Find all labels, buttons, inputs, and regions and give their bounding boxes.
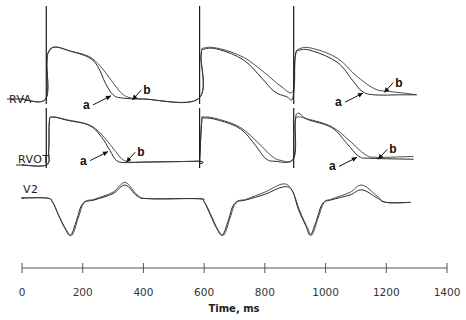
trace-rva-b: [22, 47, 417, 103]
annotation-rvot-a-0: a: [80, 152, 108, 168]
annotation-rvot-a-2: a: [329, 157, 357, 173]
channels-group: RVARVOTV2: [7, 47, 417, 236]
channel-v2: V2: [21, 182, 411, 235]
x-tick-label-0: 0: [19, 286, 26, 298]
x-axis: 0200400600800100012001400: [19, 263, 461, 298]
annotation-label-a: a: [83, 98, 90, 112]
chart-canvas: RVARVOTV2 abababab 020040060080010001200…: [0, 0, 466, 320]
annotation-label-b: b: [143, 83, 150, 97]
x-tick-label-200: 200: [73, 286, 93, 298]
annotation-rvot-b-1: b: [126, 145, 144, 162]
annotation-label-a: a: [335, 95, 342, 109]
annotation-label-b: b: [137, 145, 144, 159]
trace-rva-a: [22, 47, 417, 102]
annotation-label-b: b: [389, 142, 396, 156]
annotation-rva-a-2: a: [335, 93, 363, 109]
x-tick-label-600: 600: [194, 286, 214, 298]
stimulus-spikes-group: [46, 6, 293, 168]
x-tick-label-800: 800: [255, 286, 275, 298]
x-axis-label: Time, ms: [208, 303, 259, 314]
annotation-rva-b-1: b: [132, 83, 150, 100]
x-tick-label-1400: 1400: [434, 286, 461, 298]
annotation-label-a: a: [80, 154, 87, 168]
channel-label-rvot: RVOT: [18, 153, 50, 166]
annotation-rva-b-3: b: [384, 76, 402, 93]
channel-label-v2: V2: [23, 183, 39, 196]
annotation-rva-a-0: a: [83, 96, 111, 112]
annotations-group: abababab: [80, 76, 403, 174]
annotation-label-b: b: [395, 76, 402, 90]
x-tick-label-1200: 1200: [373, 286, 400, 298]
x-tick-label-1000: 1000: [312, 286, 339, 298]
x-tick-label-400: 400: [133, 286, 153, 298]
annotation-label-a: a: [329, 159, 336, 173]
